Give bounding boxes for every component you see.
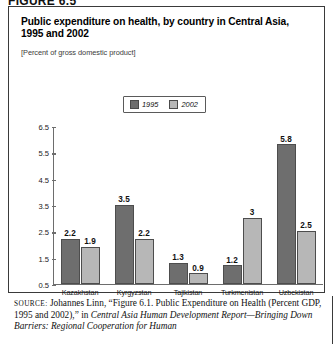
bar-group: 5.82.5 — [269, 128, 323, 284]
bar-1995: 3.5 — [115, 205, 134, 284]
bar-2002: 2.2 — [135, 239, 154, 284]
category-label: Turkmenistan — [215, 288, 269, 297]
y-tick-label: 3.5 — [38, 202, 49, 211]
category-label: Uzbekistan — [269, 288, 323, 297]
right-rule — [332, 296, 333, 344]
bar-value-label: 2.2 — [138, 229, 149, 238]
x-axis-line — [53, 284, 323, 285]
legend-swatch-2002 — [169, 100, 178, 109]
bar-value-label: 5.8 — [280, 135, 291, 144]
bar-value-label: 3.5 — [118, 195, 129, 204]
bar-2002: 1.9 — [81, 247, 100, 284]
plot-area: 0.51.52.53.54.55.56.5 2.21.93.52.21.30.9… — [53, 127, 323, 285]
bar-group: 3.52.2 — [107, 128, 161, 284]
source-line2-italic: Central Asia Human Development — [91, 310, 219, 320]
category-label: Kazakhstan — [53, 288, 107, 297]
y-tick-label: 1.5 — [38, 254, 49, 263]
bar-value-label: 2.5 — [300, 221, 311, 230]
chart-subtitle: [Percent of gross domestic product] — [21, 48, 313, 57]
bar-value-label: 1.3 — [172, 253, 183, 262]
bar-2002: 3 — [243, 218, 262, 284]
legend-item-1995: 1995 — [130, 100, 158, 109]
bar-1995: 1.2 — [223, 265, 242, 283]
bar-value-label: 1.2 — [226, 256, 237, 265]
legend-label-2002: 2002 — [181, 100, 197, 109]
bar-1995: 1.3 — [169, 263, 188, 284]
bar-group: 1.30.9 — [161, 128, 215, 284]
bar-2002: 2.5 — [297, 231, 316, 284]
figure-page: FIGURE 6.5 Public expenditure on health,… — [0, 0, 335, 344]
source-label: SOURCE: — [14, 299, 48, 308]
bar-value-label: 2.2 — [64, 229, 75, 238]
legend-label-1995: 1995 — [142, 100, 158, 109]
bar-2002: 0.9 — [189, 273, 208, 284]
bar-group: 1.23 — [215, 128, 269, 284]
y-tick — [52, 285, 56, 286]
y-tick-label: 4.5 — [38, 175, 49, 184]
category-labels: KazakhstanKyrgyzstanTajikistanTurkmenist… — [53, 288, 323, 297]
y-tick-label: 5.5 — [38, 149, 49, 158]
y-tick-label: 0.5 — [38, 281, 49, 290]
legend-swatch-1995 — [130, 100, 139, 109]
bar-value-label: 3 — [250, 208, 255, 217]
chart-legend: 1995 2002 — [123, 96, 206, 113]
y-tick-label: 6.5 — [38, 123, 49, 132]
source-note: SOURCE: Johannes Linn, “Figure 6.1. Publ… — [14, 298, 324, 333]
y-tick-label: 2.5 — [38, 228, 49, 237]
bar-value-label: 0.9 — [192, 264, 203, 273]
bar-1995: 5.8 — [277, 144, 296, 284]
category-label: Kyrgyzstan — [107, 288, 161, 297]
chart-title: Public expenditure on health, by country… — [21, 16, 313, 41]
legend-item-2002: 2002 — [169, 100, 197, 109]
bar-1995: 2.2 — [61, 239, 80, 284]
bar-group: 2.21.9 — [53, 128, 107, 284]
bar-value-label: 1.9 — [84, 237, 95, 246]
bar-groups: 2.21.93.52.21.30.91.235.82.5 — [53, 128, 323, 284]
source-line1: Johannes Linn, “Figure 6.1. Public Expen… — [50, 298, 266, 308]
category-label: Tajikistan — [161, 288, 215, 297]
figure-box: Public expenditure on health, by country… — [8, 6, 325, 293]
